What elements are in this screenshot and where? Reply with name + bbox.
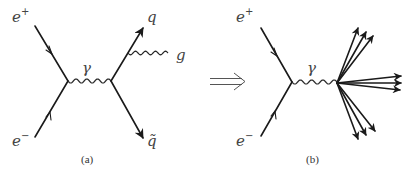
jet-track [337,32,366,83]
panel-a: e+ e− γ q q̃ g (a) [12,6,186,166]
label-photon: γ [307,59,316,77]
jet-track [337,83,366,135]
panel-b: e+ e− γ (b) [236,6,401,166]
jet-track [337,83,375,131]
jet-track [337,83,358,139]
label-electron: e− [12,130,29,150]
jet-track [337,28,358,83]
middle-jet [337,76,401,90]
label-positron: e+ [12,6,29,26]
hadron-jets [337,28,401,139]
label-antiquark: q̃ [147,132,157,150]
label-quark: q [147,8,157,26]
label-gluon: g [176,46,186,64]
feynman-figure: e+ e− γ q q̃ g (a) e+ e− γ (b) [0,0,416,176]
photon-propagator [292,80,337,84]
electron-line [261,82,292,136]
quark-line [111,28,143,81]
jet-track [337,76,401,83]
jet-track [337,36,373,83]
lower-jet [337,83,375,139]
gluon-line [128,51,168,55]
caption-a: (a) [81,153,94,166]
transition-arrow-icon [210,73,245,90]
label-electron: e− [236,130,253,150]
upper-jet [337,28,373,83]
caption-b: (b) [306,153,319,166]
electron-arrow-icon [46,112,51,120]
antiquark-line [111,81,143,138]
electron-line [35,81,68,137]
label-photon: γ [82,59,91,77]
jet-track [337,83,400,90]
photon-propagator [68,79,111,83]
label-positron: e+ [236,6,253,26]
